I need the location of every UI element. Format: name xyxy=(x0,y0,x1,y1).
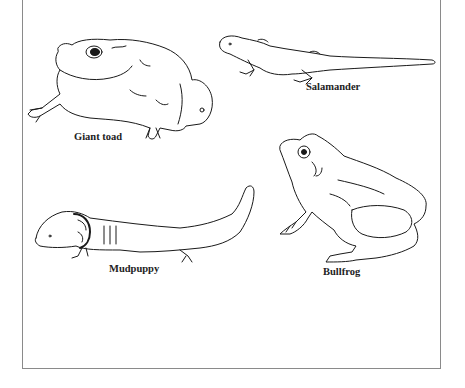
amphibians-illustration xyxy=(0,0,465,388)
salamander-label: Salamander xyxy=(306,81,360,92)
bullfrog-drawing xyxy=(280,134,426,262)
bullfrog-label: Bullfrog xyxy=(323,266,360,277)
salamander-drawing xyxy=(219,36,435,84)
mudpuppy-label: Mudpuppy xyxy=(109,263,159,274)
giant-toad-drawing xyxy=(28,39,212,139)
giant-toad-label: Giant toad xyxy=(74,131,122,142)
mudpuppy-drawing xyxy=(35,186,254,262)
